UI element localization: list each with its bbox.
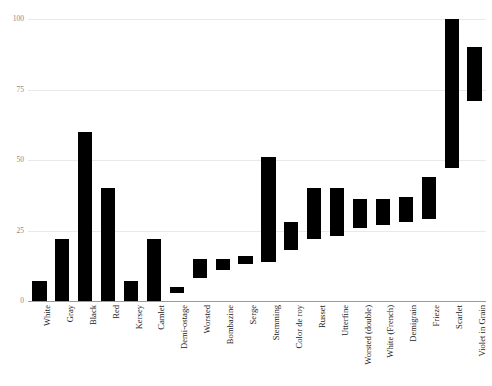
bar (376, 199, 390, 224)
x-axis-tick-label: Stemming (272, 305, 281, 340)
x-axis-tick-label: Demi-ostage (180, 305, 189, 349)
x-axis-tick-label: Black (89, 305, 98, 325)
x-axis-tick-label: Worsted (203, 305, 212, 333)
bar (193, 259, 207, 279)
bar (170, 287, 184, 293)
y-axis-tick-label: 25 (0, 226, 24, 235)
gridline (28, 90, 486, 91)
bar (238, 256, 252, 264)
bar (399, 197, 413, 222)
x-axis-tick-label: Kersey (135, 305, 144, 329)
x-axis-tick-label: Serge (249, 305, 258, 324)
x-axis-tick-label: Scarlet (455, 305, 464, 329)
gridline (28, 19, 486, 20)
x-axis-tick-label: Bombazine (226, 305, 235, 344)
y-axis-tick-label: 100 (0, 14, 24, 23)
x-axis-tick-label: Color de roy (295, 305, 304, 348)
x-axis-tick-label: Russet (318, 305, 327, 328)
x-axis-tick-label: Camlet (157, 305, 166, 330)
x-axis-tick-label: White (43, 305, 52, 326)
gridline (28, 160, 486, 161)
x-axis-tick-label: White (French) (386, 305, 395, 358)
bar (124, 281, 138, 301)
bar (147, 239, 161, 301)
bar (445, 19, 459, 168)
bar (330, 188, 344, 236)
x-axis-tick-label: Demigrain (409, 305, 418, 342)
x-axis-tick-label: Worsted (double) (364, 305, 373, 365)
x-axis-tick-label: Violet in Grain (478, 305, 487, 357)
y-axis-tick-label: 0 (0, 296, 24, 305)
bar (216, 259, 230, 270)
x-axis-tick-label: Gray (66, 305, 75, 322)
bar (307, 188, 321, 239)
bar (78, 132, 92, 301)
bar (32, 281, 46, 301)
x-axis-line (28, 301, 486, 302)
bar (422, 177, 436, 219)
gridline (28, 231, 486, 232)
x-axis-tick-label: Frieze (432, 305, 441, 326)
bar (55, 239, 69, 301)
y-axis-tick-label: 75 (0, 85, 24, 94)
bar (467, 47, 481, 101)
chart-container: 0255075100 WhiteGrayBlackRedKerseyCamlet… (0, 0, 492, 386)
x-axis-tick-label: Red (112, 305, 121, 319)
y-axis-tick-label: 50 (0, 155, 24, 164)
bar (101, 188, 115, 301)
x-axis-tick-label: Utterfine (341, 305, 350, 336)
bar (353, 199, 367, 227)
bar (284, 222, 298, 250)
bar (261, 157, 275, 261)
